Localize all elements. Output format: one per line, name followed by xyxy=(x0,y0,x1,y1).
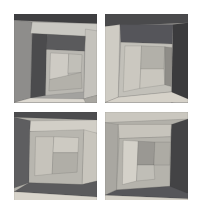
shape-right-inner-gray xyxy=(165,47,172,87)
shape-dark-left-column xyxy=(31,33,48,98)
panel-top-left-canvas xyxy=(14,14,97,103)
shape-inner-pale-right xyxy=(68,54,82,73)
panel-top-right[interactable] xyxy=(105,14,188,103)
shape-inner-gray-mid xyxy=(137,141,154,165)
shape-inner-pale-center xyxy=(137,165,155,181)
shape-upper-light-band xyxy=(118,124,171,138)
shape-center-pale-block xyxy=(140,69,165,88)
shape-right-pale-col xyxy=(82,129,97,184)
panel-top-right-canvas xyxy=(105,14,188,103)
shape-inner-pale-left xyxy=(122,140,138,184)
shape-inner-center-gray xyxy=(52,152,78,173)
panel-bottom-left[interactable] xyxy=(14,112,97,201)
shape-right-light-col xyxy=(84,29,97,99)
shape-upper-dark-block xyxy=(120,25,173,44)
shape-inner-dark-top xyxy=(46,34,85,51)
artboard xyxy=(0,0,201,218)
shape-left-mid-gray xyxy=(14,20,32,102)
panel-bottom-right[interactable] xyxy=(105,112,188,201)
shape-inner-top-light xyxy=(53,136,79,152)
shape-inner-left-pale xyxy=(35,136,54,175)
shape-inner-pale-left xyxy=(50,53,69,80)
shape-right-dark-col xyxy=(171,23,188,103)
shape-left-mid-col xyxy=(105,122,118,195)
shape-left-dark-col xyxy=(14,117,31,188)
panel-grid xyxy=(0,0,201,218)
panel-bottom-right-canvas xyxy=(105,112,188,201)
panel-top-left[interactable] xyxy=(14,14,97,103)
shape-right-dark-col xyxy=(170,119,188,197)
shape-left-pale-col xyxy=(105,25,120,103)
shape-left-pale-inner xyxy=(123,46,141,92)
shape-inner-right-gray xyxy=(154,142,171,165)
shape-center-mid-block xyxy=(141,46,165,69)
panel-bottom-left-canvas xyxy=(14,112,97,201)
